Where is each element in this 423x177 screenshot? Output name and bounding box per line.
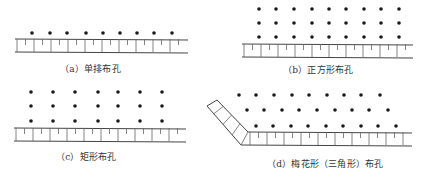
- caption-a-single-row: （a）单排布孔: [60, 62, 121, 75]
- blast-hole-dot-a: [101, 31, 105, 35]
- blast-hole-dot-d: [262, 108, 266, 112]
- blast-hole-dot-d: [394, 124, 398, 128]
- blast-hole-dot-d: [290, 93, 294, 97]
- blast-hole-dot-c: [116, 104, 120, 108]
- blast-hole-dot-c: [51, 104, 55, 108]
- blast-hole-dot-d: [297, 108, 301, 112]
- blast-hole-dot-d: [271, 124, 275, 128]
- blast-hole-dot-d: [342, 93, 346, 97]
- blast-hole-dot-c: [138, 90, 142, 94]
- blast-hole-dot-d: [359, 93, 363, 97]
- slope-hatch: [223, 115, 232, 124]
- blast-hole-dot-b: [379, 21, 383, 25]
- blast-hole-dot-c: [73, 104, 77, 108]
- blast-hole-dot-b: [292, 7, 296, 11]
- blast-hole-dot-b: [344, 21, 348, 25]
- blast-hole-dot-d: [386, 108, 390, 112]
- blast-hole-dot-c: [29, 104, 33, 108]
- blast-hole-dot-b: [362, 35, 366, 39]
- blast-hole-dot-b: [379, 7, 383, 11]
- blast-hole-dot-c: [96, 119, 100, 123]
- bench-bottom-line-b: [242, 57, 413, 58]
- blast-hole-dot-b: [327, 21, 331, 25]
- blast-hole-dot-b: [257, 21, 261, 25]
- blast-hole-dot-d: [378, 93, 382, 97]
- blast-hole-dot-c: [51, 119, 55, 123]
- blast-hole-dot-d: [359, 124, 363, 128]
- blast-hole-dot-d: [325, 93, 329, 97]
- slope-inner-line: [217, 100, 248, 132]
- blast-hole-dot-d: [324, 124, 328, 128]
- blast-hole-dot-a: [84, 31, 88, 35]
- blast-hole-dot-c: [160, 104, 164, 108]
- blast-hole-dot-d: [307, 93, 311, 97]
- blast-hole-dot-d: [333, 108, 337, 112]
- blast-hole-dot-d: [254, 124, 258, 128]
- blast-hole-dot-b: [292, 21, 296, 25]
- blast-hole-dot-b: [379, 35, 383, 39]
- blast-hole-dot-b: [397, 21, 401, 25]
- caption-b-square: （b）正方形布孔: [283, 63, 353, 76]
- blast-hole-dot-b: [274, 21, 278, 25]
- blast-hole-dot-d: [289, 124, 293, 128]
- bench-bottom-line-a: [15, 52, 188, 53]
- blast-hole-dot-d: [245, 108, 249, 112]
- blast-hole-dot-b: [257, 35, 261, 39]
- bench-bottom-line-d: [241, 145, 412, 146]
- blast-hole-dot-c: [96, 104, 100, 108]
- blast-hole-dot-d: [254, 93, 258, 97]
- blast-hole-dot-d: [272, 93, 276, 97]
- blast-hole-dot-c: [160, 90, 164, 94]
- slope-toe: [241, 132, 248, 145]
- blast-hole-dot-c: [29, 90, 33, 94]
- blast-hole-dot-a: [170, 31, 174, 35]
- blast-hole-dot-c: [138, 104, 142, 108]
- blast-hole-dot-c: [96, 90, 100, 94]
- blast-hole-dot-c: [51, 90, 55, 94]
- blast-hole-dot-a: [118, 31, 122, 35]
- blast-hole-dot-c: [73, 119, 77, 123]
- slope-top-cap: [207, 100, 217, 106]
- blast-hole-dot-b: [292, 35, 296, 39]
- blast-hole-dot-b: [397, 35, 401, 39]
- blast-hole-dot-c: [116, 119, 120, 123]
- blast-hole-dot-a: [30, 31, 34, 35]
- blast-hole-dot-d: [237, 93, 241, 97]
- blast-hole-dot-b: [274, 35, 278, 39]
- blast-hole-dot-d: [341, 124, 345, 128]
- blast-hole-dot-c: [138, 119, 142, 123]
- blast-hole-dot-a: [65, 31, 69, 35]
- bench-bottom-line-c: [14, 141, 186, 142]
- blast-hole-dot-c: [73, 90, 77, 94]
- blast-hole-dot-a: [48, 31, 52, 35]
- blast-hole-dot-b: [274, 7, 278, 11]
- bench-top-line-a: [15, 39, 188, 40]
- blast-hole-dot-b: [397, 7, 401, 11]
- blast-hole-dot-b: [257, 7, 261, 11]
- bench-top-line-b: [242, 44, 413, 45]
- blast-hole-dot-b: [362, 21, 366, 25]
- blast-hole-dot-c: [116, 90, 120, 94]
- blast-hole-dot-d: [350, 108, 354, 112]
- blast-hole-dot-d: [306, 124, 310, 128]
- blast-hole-dot-d: [376, 124, 380, 128]
- blast-hole-dot-d: [315, 108, 319, 112]
- caption-c-rectangular: （c）矩形布孔: [56, 150, 116, 163]
- blast-hole-dot-b: [310, 35, 314, 39]
- blast-hole-dot-a: [135, 31, 139, 35]
- blast-hole-dot-b: [344, 7, 348, 11]
- blast-hole-dot-b: [310, 21, 314, 25]
- blast-hole-dot-b: [327, 35, 331, 39]
- caption-d-staggered: （d）梅花形（三角形）布孔: [267, 157, 383, 170]
- bench-top-line-d: [248, 132, 412, 133]
- blast-hole-dot-c: [160, 119, 164, 123]
- slope-hatch: [232, 124, 240, 135]
- blast-hole-dot-b: [362, 7, 366, 11]
- blast-hole-dot-b: [310, 7, 314, 11]
- slope-hatch: [214, 106, 223, 113]
- slope-outer-line: [207, 106, 241, 145]
- blast-hole-dot-b: [344, 35, 348, 39]
- blast-hole-dot-b: [327, 7, 331, 11]
- blast-hole-dot-d: [280, 108, 284, 112]
- blast-hole-dot-d: [367, 108, 371, 112]
